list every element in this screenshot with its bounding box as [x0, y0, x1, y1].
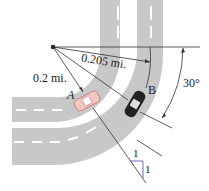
center-point [51, 45, 55, 49]
car-b-label: B [148, 83, 156, 98]
car-a-label: A [67, 88, 74, 103]
road-diagram [0, 0, 209, 191]
slope-rise-label: 1 [145, 163, 151, 175]
angle-ray [140, 112, 172, 128]
diagram-canvas: 0.2 mi. 0.205 mi. 30° A B 1 1 [0, 0, 209, 191]
parallel-line [137, 140, 162, 156]
angle-arrow-bottom [162, 113, 166, 118]
slope-run-label: 1 [133, 147, 139, 159]
angle-arrow-top [181, 48, 185, 53]
angle-arc [162, 48, 183, 118]
inner-radius-label: 0.2 mi. [33, 71, 67, 86]
angle-label: 30° [183, 76, 200, 91]
